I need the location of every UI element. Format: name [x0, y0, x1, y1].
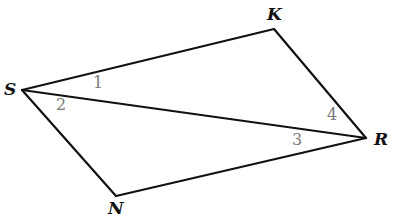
- diagonal-SR: [22, 90, 366, 138]
- angle-label-2: 2: [56, 95, 66, 114]
- edge-NS: [22, 90, 116, 196]
- angle-label-1: 1: [93, 73, 103, 92]
- angle-label-4: 4: [327, 105, 337, 124]
- edge-RN: [116, 138, 366, 196]
- edge-SK: [22, 29, 274, 90]
- angle-label-3: 3: [292, 130, 302, 149]
- diagram-canvas: S K R N 1 2 3 4: [0, 0, 394, 215]
- vertex-label-R: R: [373, 129, 388, 149]
- vertex-label-K: K: [266, 4, 283, 24]
- quadrilateral-diagram: S K R N 1 2 3 4: [0, 0, 394, 215]
- vertex-label-N: N: [107, 198, 125, 215]
- edge-KR: [274, 29, 366, 138]
- vertex-label-S: S: [4, 79, 16, 99]
